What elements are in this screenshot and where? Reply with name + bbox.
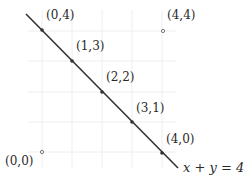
point-0-0 xyxy=(40,150,43,153)
label-point-0-4: (0,4) xyxy=(46,8,74,22)
point-0-4 xyxy=(40,28,44,32)
equation-label: x + y = 4 xyxy=(183,160,244,175)
label-point-4-0: (4,0) xyxy=(166,132,194,146)
point-4-0 xyxy=(160,151,164,155)
label-point-2-2: (2,2) xyxy=(106,70,134,84)
point-1-3 xyxy=(70,59,74,63)
point-4-4 xyxy=(161,29,164,32)
label-point-0-0: (0,0) xyxy=(5,154,33,168)
point-3-1 xyxy=(130,120,134,124)
point-2-2 xyxy=(100,90,104,94)
label-point-3-1: (3,1) xyxy=(136,101,164,115)
label-point-1-3: (1,3) xyxy=(76,39,104,53)
line-diagram: (0,4) (1,3) (2,2) (3,1) (4,0) (4,4) (0,0… xyxy=(0,0,245,184)
label-point-4-4: (4,4) xyxy=(167,8,195,22)
